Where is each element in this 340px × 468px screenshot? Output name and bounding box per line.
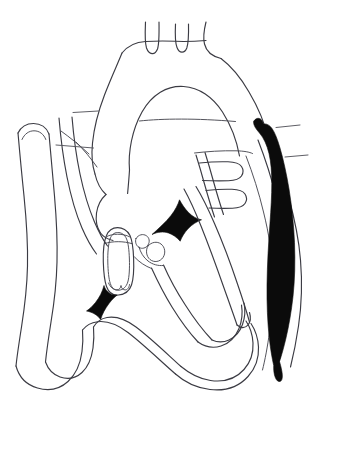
cardiac-diagram-canvas: Cardiac anatomy line diagram Black-and-w… — [0, 0, 340, 468]
cardiac-diagram-figure: Cardiac anatomy line diagram Black-and-w… — [0, 0, 340, 468]
